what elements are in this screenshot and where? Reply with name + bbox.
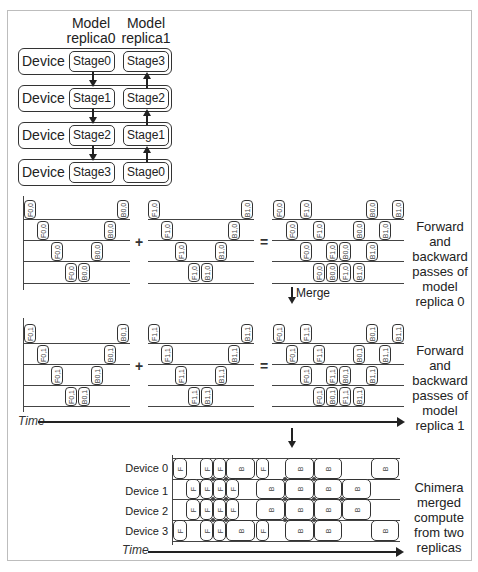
backward-block: B0,1	[117, 324, 129, 343]
forward-block: F0,1	[24, 324, 36, 343]
forward-block: F1,1	[188, 387, 200, 406]
forward-block: F	[200, 520, 213, 541]
backward-block: B1,1	[366, 366, 378, 385]
junction-dot	[312, 518, 316, 522]
forward-block: F1,1	[326, 366, 338, 385]
arrow-up-icon	[146, 78, 148, 88]
time-arrowhead-icon	[396, 547, 404, 557]
device-lane-line	[272, 364, 404, 365]
arrowhead-down-icon	[288, 297, 296, 304]
time-arrowhead-icon	[397, 417, 405, 427]
backward-block: B0,1	[366, 324, 378, 343]
backward-block: B	[285, 458, 314, 479]
arrowhead-up-icon	[143, 72, 151, 79]
forward-block: F0,1	[51, 366, 63, 385]
backward-block: B1,1	[392, 324, 404, 343]
backward-block: B0,1	[353, 345, 365, 364]
forward-block: F	[186, 479, 200, 499]
chimera-device-label: Device 1	[113, 485, 168, 497]
time-axis-label: Time	[122, 543, 149, 557]
chimera-device-label: Device 3	[113, 525, 168, 537]
stage-box: Stage2	[69, 125, 115, 146]
arrow-down-icon	[291, 428, 293, 442]
forward-block: F	[226, 479, 239, 499]
stage-box: Stage3	[123, 51, 169, 72]
backward-block: B0,0	[366, 200, 378, 219]
device-lane-line	[148, 240, 254, 241]
forward-block: F	[200, 458, 213, 479]
chimera-device-label: Device 0	[113, 462, 168, 474]
backward-block: B1,0	[392, 200, 404, 219]
forward-block: F0,0	[273, 200, 285, 219]
forward-block: F	[200, 479, 213, 499]
chimera-device-label: Device 2	[113, 505, 168, 517]
replica0-caption: Forward and backward passes of model rep…	[404, 219, 476, 309]
backward-block: B	[256, 479, 285, 499]
junction-dot	[283, 518, 287, 522]
backward-block: B0,0	[104, 221, 116, 240]
forward-block: F0,1	[300, 366, 312, 385]
stage-box: Stage0	[123, 162, 169, 183]
backward-block: B1,0	[201, 263, 213, 282]
forward-block: F1,1	[339, 387, 351, 406]
junction-dot	[211, 477, 215, 481]
backward-block: B0,0	[353, 221, 365, 240]
junction-dot	[224, 477, 228, 481]
backward-block: B0,1	[78, 387, 90, 406]
backward-block: B	[285, 520, 314, 541]
arrowhead-down-icon	[89, 154, 97, 161]
replica1-header-line1: Model	[121, 16, 171, 31]
equals-operator: =	[260, 358, 268, 374]
junction-dot	[312, 497, 316, 501]
forward-block: F	[256, 458, 269, 479]
forward-block: F0,1	[313, 387, 325, 406]
junction-dot	[312, 477, 316, 481]
junction-dot	[224, 497, 228, 501]
backward-block: B0,1	[104, 345, 116, 364]
device-lane-line	[272, 406, 404, 407]
forward-block: F	[173, 458, 187, 479]
device-lane-line	[23, 219, 130, 220]
backward-block: B1,0	[379, 221, 391, 240]
forward-block: F0,0	[286, 221, 298, 240]
backward-block: B1,0	[228, 221, 240, 240]
arrow-up-icon	[146, 115, 148, 125]
backward-block: B	[371, 520, 399, 541]
device-lane-line	[148, 261, 254, 262]
device-lane-line	[272, 385, 404, 386]
device-lane-line	[272, 261, 404, 262]
replica0-header-line1: Model	[66, 16, 116, 31]
backward-block: B1,0	[241, 200, 253, 219]
device-lane-line	[272, 283, 404, 284]
backward-block: B	[226, 458, 255, 479]
plus-operator: +	[135, 234, 143, 250]
replica1-caption: Forward and backward passes of model rep…	[404, 343, 476, 433]
backward-block: B1,0	[353, 263, 365, 282]
replica1-header-line2: replica1	[121, 31, 171, 46]
device-lane-line	[148, 364, 254, 365]
forward-block: F1,1	[161, 345, 173, 364]
forward-block: F1,1	[148, 324, 160, 343]
device-lane-line	[23, 385, 130, 386]
backward-block: B0,1	[91, 366, 103, 385]
backward-block: B1,0	[215, 242, 227, 261]
backward-block: B0,0	[78, 263, 90, 282]
forward-block: F1,0	[148, 200, 160, 219]
stage-box: Stage3	[69, 162, 115, 183]
forward-block: F0,1	[37, 345, 49, 364]
junction-dot	[211, 497, 215, 501]
forward-block: F	[186, 499, 200, 520]
backward-block: B	[314, 458, 342, 479]
arrowhead-down-icon	[89, 117, 97, 124]
arrow-up-icon	[146, 152, 148, 162]
backward-block: B1,1	[379, 345, 391, 364]
forward-block: F	[256, 520, 269, 541]
junction-dot	[211, 518, 215, 522]
forward-block: F1,0	[188, 263, 200, 282]
forward-block: F	[226, 499, 239, 520]
backward-block: B	[314, 499, 342, 520]
backward-block: B1,1	[353, 387, 365, 406]
device-lane-line	[23, 364, 130, 365]
stage-box: Stage1	[123, 125, 169, 146]
device-lane-line	[272, 240, 404, 241]
